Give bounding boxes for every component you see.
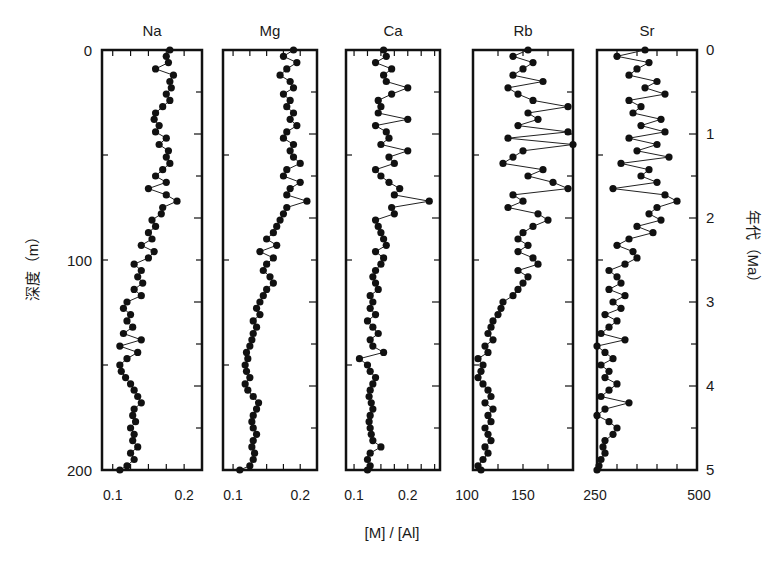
data-point xyxy=(665,154,672,161)
data-point xyxy=(369,406,376,413)
data-point xyxy=(256,298,263,305)
data-point xyxy=(364,361,371,368)
data-point xyxy=(396,185,403,192)
data-point xyxy=(514,286,521,293)
data-point xyxy=(391,160,398,167)
data-point xyxy=(593,412,600,419)
data-point xyxy=(524,46,531,53)
data-point xyxy=(637,103,644,110)
data-point xyxy=(609,431,616,438)
data-point xyxy=(131,387,138,394)
x-tick-label: 0.2 xyxy=(290,487,310,503)
data-point xyxy=(127,424,134,431)
data-point xyxy=(617,280,624,287)
data-point xyxy=(127,450,134,457)
data-point xyxy=(367,336,374,343)
data-point xyxy=(661,91,668,98)
data-point xyxy=(629,109,636,116)
data-point xyxy=(383,242,390,249)
data-point xyxy=(380,235,387,242)
data-point xyxy=(303,198,310,205)
data-point xyxy=(260,267,267,274)
data-point xyxy=(297,179,304,186)
data-point xyxy=(653,179,660,186)
data-point xyxy=(173,198,180,205)
data-point xyxy=(152,128,159,135)
data-point xyxy=(375,109,382,116)
data-point xyxy=(283,103,290,110)
data-point xyxy=(158,210,165,217)
data-point xyxy=(364,317,371,324)
data-point xyxy=(132,418,139,425)
data-point xyxy=(367,292,374,299)
data-point xyxy=(283,65,290,72)
data-point xyxy=(597,456,604,463)
data-point xyxy=(159,204,166,211)
data-point xyxy=(163,179,170,186)
panel-ca: Ca0.10.2 xyxy=(344,22,440,503)
data-point xyxy=(250,393,257,400)
data-point xyxy=(253,406,260,413)
data-point xyxy=(633,147,640,154)
data-point xyxy=(380,349,387,356)
data-point xyxy=(597,361,604,368)
data-point xyxy=(564,185,571,192)
data-point xyxy=(529,223,536,230)
panel-title: Na xyxy=(142,22,162,39)
data-point xyxy=(481,399,488,406)
data-point xyxy=(131,456,138,463)
data-point xyxy=(633,254,640,261)
data-point xyxy=(290,141,297,148)
data-point xyxy=(633,65,640,72)
panel-title: Mg xyxy=(260,22,281,39)
data-point xyxy=(372,267,379,274)
data-point xyxy=(601,349,608,356)
series-line xyxy=(359,50,429,470)
data-point xyxy=(116,343,123,350)
data-point xyxy=(166,46,173,53)
data-point xyxy=(375,97,382,104)
data-point xyxy=(372,248,379,255)
data-point xyxy=(499,160,506,167)
data-point xyxy=(152,223,159,230)
data-point xyxy=(131,261,138,268)
data-point xyxy=(120,305,127,312)
data-point xyxy=(377,141,384,148)
data-point xyxy=(276,72,283,79)
data-point xyxy=(653,204,660,211)
data-point xyxy=(250,317,257,324)
data-point xyxy=(484,431,491,438)
x-tick-label: 0.1 xyxy=(344,487,364,503)
data-point xyxy=(129,324,136,331)
data-point xyxy=(605,368,612,375)
data-point xyxy=(138,399,145,406)
data-point xyxy=(123,298,130,305)
data-point xyxy=(369,298,376,305)
data-point xyxy=(372,311,379,318)
data-point xyxy=(145,229,152,236)
data-point xyxy=(123,462,130,469)
panel-rb: Rb100150 xyxy=(455,22,576,503)
data-point xyxy=(372,217,379,224)
data-point xyxy=(152,65,159,72)
data-point xyxy=(131,431,138,438)
right-tick-4: 4 xyxy=(706,377,714,394)
data-point xyxy=(633,223,640,230)
data-point xyxy=(388,91,395,98)
data-point xyxy=(617,305,624,312)
data-point xyxy=(263,286,270,293)
data-point xyxy=(487,418,494,425)
data-point xyxy=(514,235,521,242)
data-point xyxy=(287,97,294,104)
data-point xyxy=(519,65,526,72)
data-point xyxy=(293,122,300,129)
data-point xyxy=(621,336,628,343)
panel-title: Rb xyxy=(513,22,532,39)
data-point xyxy=(170,72,177,79)
data-point xyxy=(484,450,491,457)
data-point xyxy=(369,380,376,387)
data-point xyxy=(605,387,612,394)
data-point xyxy=(165,147,172,154)
data-point xyxy=(116,466,123,473)
data-point xyxy=(377,261,384,268)
